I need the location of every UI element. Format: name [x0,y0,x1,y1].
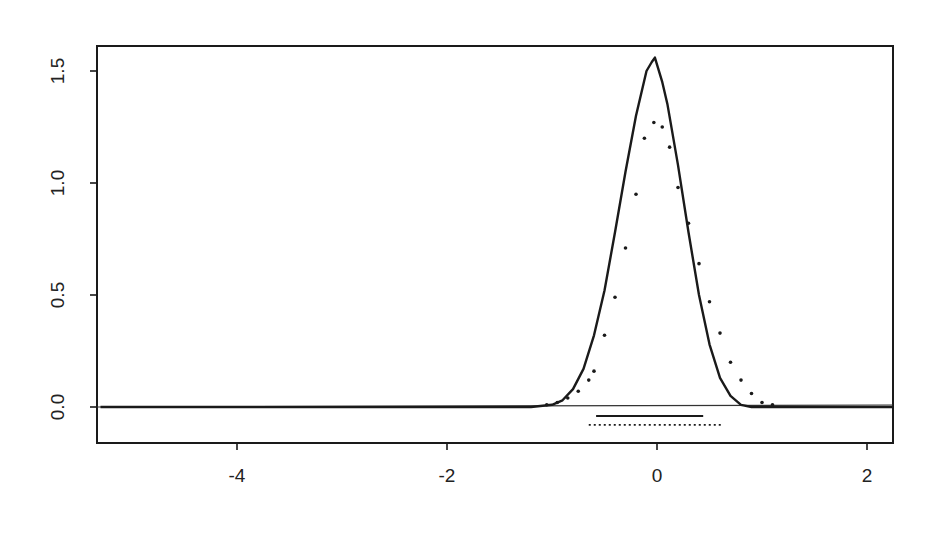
density-plot: 0.00.51.01.5 -4-202 [0,0,939,536]
solid-density-curve [101,58,894,407]
y-axis: 0.00.51.01.5 [47,58,97,420]
y-tick-label: 1.5 [47,58,68,84]
dotted-point [587,378,591,382]
dotted-point [576,390,580,394]
dotted-point [687,222,691,226]
dotted-point [660,125,664,129]
dotted-point [652,121,656,125]
dotted-point [624,246,628,250]
y-tick-label: 1.0 [47,170,68,196]
dotted-point [643,136,647,140]
y-tick-label: 0.5 [47,282,68,308]
dotted-point [545,403,549,407]
x-tick-label: 0 [652,465,663,486]
dotted-point [676,186,680,190]
dotted-density-points [545,121,774,407]
dotted-point [760,401,764,405]
dotted-point [750,392,754,396]
y-tick-label: 0.0 [47,394,68,420]
x-tick-label: -2 [439,465,456,486]
dotted-point [592,369,596,373]
x-axis: -4-202 [229,443,873,486]
x-tick-label: 2 [862,465,873,486]
plot-frame [97,46,893,443]
dotted-point [603,334,607,338]
dotted-point [566,396,570,400]
dotted-point [708,300,712,304]
dotted-point [697,262,701,266]
dotted-point [729,360,733,364]
dotted-point [771,403,775,407]
dotted-point [739,378,743,382]
dotted-point [634,192,638,196]
dotted-point [718,331,722,335]
dotted-point [668,145,672,149]
dotted-point [613,295,617,299]
dotted-point [555,401,559,405]
x-tick-label: -4 [229,465,246,486]
interval-segments [589,416,722,425]
